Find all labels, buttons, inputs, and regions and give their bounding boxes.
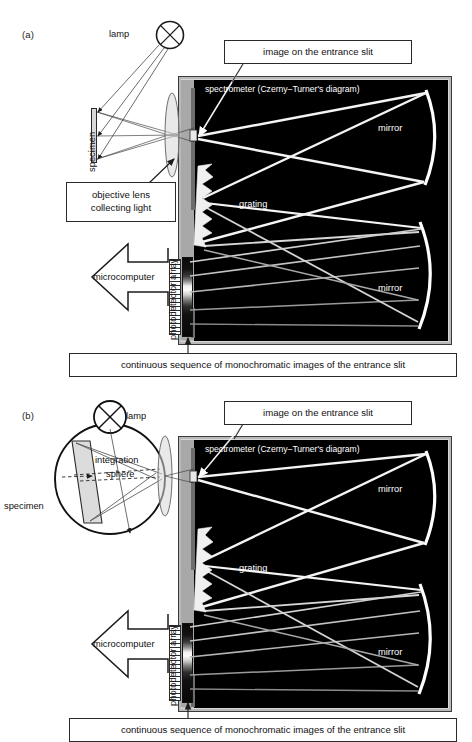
lamp-symbol-b — [94, 401, 126, 433]
lamp-symbol-a — [157, 22, 184, 49]
lamp-label-b: lamp — [126, 411, 146, 421]
microcomputer-label-a: microcomputer — [93, 272, 154, 282]
objective-lens-callout-line2-a: collecting light — [91, 202, 151, 215]
grating-a — [194, 164, 213, 247]
mirror-bottom-b — [419, 584, 430, 694]
specimen-label-a: specimen — [86, 132, 97, 172]
grating-label-a: grating — [239, 199, 267, 209]
integration-sphere-label-line2-b: sphere — [106, 469, 134, 479]
mirror-top-label-a: mirror — [378, 123, 402, 133]
mirror-top-b — [425, 451, 435, 545]
spectrometer-label-b: spectrometer (Czerny–Turner's diagram) — [205, 444, 360, 454]
lamp-label-a: lamp — [109, 29, 129, 39]
objective-lens-callout-a: objective lens collecting light — [66, 182, 176, 222]
mirror-top-label-b: mirror — [378, 484, 402, 494]
mirror-bottom-label-a: mirror — [378, 283, 402, 293]
entrance-slit-a — [190, 130, 197, 141]
entrance-slit-b — [190, 471, 197, 482]
mirror-bottom-label-b: mirror — [378, 647, 402, 657]
spectrometer-label-a: spectrometer (Czerny–Turner's diagram) — [205, 84, 360, 94]
entrance-slit-callout-b: image on the entrance slit — [224, 401, 412, 425]
photodetector-array-label-b: photodetector array — [167, 625, 178, 706]
grating-label-b: grating — [239, 563, 267, 573]
objective-lens-callout-line1-a: objective lens — [92, 189, 150, 202]
grating-b — [194, 527, 213, 612]
specimen-label-b: specimen — [4, 501, 44, 511]
entrance-slit-callout-a: image on the entrance slit — [224, 40, 412, 64]
panel-b: (b) — [0, 369, 472, 738]
mirror-bottom-a — [419, 222, 430, 329]
panel-a: (a) — [0, 0, 472, 369]
integration-sphere-label-line1-b: integration — [95, 455, 138, 465]
microcomputer-label-b: microcomputer — [93, 639, 154, 649]
objective-lens-a — [165, 93, 179, 177]
photodetector-array-label-a: photodetector array — [167, 259, 178, 340]
mirror-top-a — [425, 90, 435, 185]
caption-callout-b: continuous sequence of monochromatic ima… — [69, 718, 457, 742]
